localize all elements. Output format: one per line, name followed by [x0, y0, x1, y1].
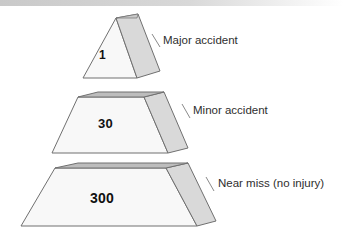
tier-label-near-miss: Near miss (no injury): [218, 177, 324, 189]
tier-value-minor-accident: 30: [98, 116, 113, 131]
pyramid-tier-minor-accident: [52, 92, 188, 153]
tier-label-minor-accident: Minor accident: [193, 104, 268, 116]
accident-pyramid-diagram: 1 30 300 Major accident Minor accident N…: [0, 0, 343, 234]
leader-line-major: [152, 34, 160, 47]
tier-label-major-accident: Major accident: [163, 34, 238, 46]
tier-near-top-face: [55, 163, 188, 168]
leader-line-near-miss: [206, 177, 214, 191]
pyramid-tier-major-accident: [83, 14, 160, 78]
leader-line-minor: [182, 104, 190, 118]
tier-major-ridge-face: [116, 14, 138, 18]
pyramid-tier-near-miss: [21, 163, 216, 226]
tier-value-near-miss: 300: [90, 190, 114, 206]
tier-value-major-accident: 1: [99, 48, 106, 62]
